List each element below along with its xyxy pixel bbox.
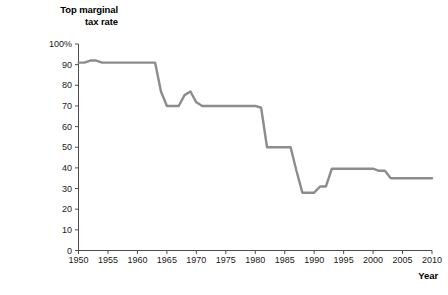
axis-lines bbox=[79, 44, 433, 251]
data-series-line bbox=[79, 61, 433, 193]
y-axis-tick-marks bbox=[75, 44, 79, 251]
chart-container: Top marginaltax rate Year 100%9080706050… bbox=[0, 0, 448, 295]
plot-area bbox=[0, 0, 448, 295]
x-axis-tick-marks bbox=[79, 251, 433, 255]
